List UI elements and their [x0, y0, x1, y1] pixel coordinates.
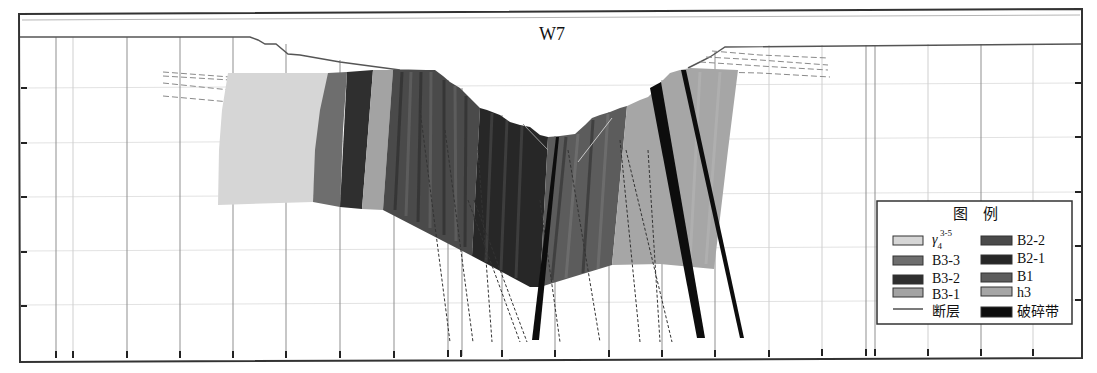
legend: 图 例 γ43-5 B3-3 B3-2 B3-1 断层 B2-2 B2-1 B1…: [877, 201, 1072, 324]
legend-swatch-h3: [981, 287, 1012, 296]
legend-swatch-gamma4: [893, 236, 923, 245]
legend-swatch-B2-1: [981, 255, 1012, 264]
legend-label-B3-3: B3-3: [932, 253, 960, 268]
legend-label-fracture-zone: 破碎带: [1017, 304, 1059, 319]
legend-swatch-B3-2: [893, 275, 923, 284]
legend-label-B2-2: B2-2: [1017, 233, 1045, 248]
legend-label-h3: h3: [1017, 285, 1031, 300]
legend-label-B2-1: B2-1: [1017, 251, 1045, 266]
geological-cross-section: W7 图 例 γ43-5 B3-3 B3-2 B3-1 断层 B2-2 B2-1…: [0, 0, 1097, 373]
legend-label-B1: B1: [1017, 269, 1033, 284]
legend-label-fault: 断层: [932, 304, 960, 319]
legend-swatch-B3-1: [893, 288, 923, 297]
unit-B2-1: [472, 108, 548, 287]
legend-label-B3-1: B3-1: [932, 287, 960, 302]
legend-swatch-B3-3: [893, 256, 923, 265]
section-title: W7: [539, 24, 565, 44]
unit-gamma4: [218, 73, 330, 205]
legend-label-B3-2: B3-2: [932, 271, 960, 286]
legend-swatch-B1: [981, 273, 1012, 282]
legend-swatch-B2-2: [981, 236, 1012, 245]
legend-title: 图 例: [953, 206, 998, 222]
legend-swatch-fracture-zone: [981, 307, 1012, 317]
